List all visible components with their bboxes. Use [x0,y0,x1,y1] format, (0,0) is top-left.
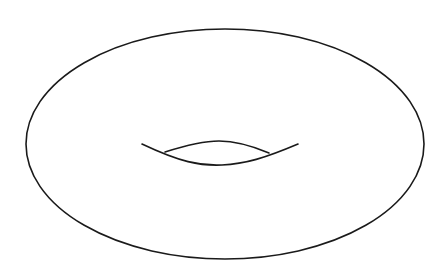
torus-outer-contour [26,29,424,259]
torus-hole-upper-contour [165,141,269,153]
torus-diagram [0,0,448,275]
torus-hole-lower-contour [142,144,298,165]
